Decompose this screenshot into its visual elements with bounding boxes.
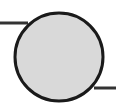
diagram-canvas xyxy=(0,0,116,112)
node-circle[interactable] xyxy=(15,13,103,101)
diagram-svg xyxy=(0,0,116,112)
